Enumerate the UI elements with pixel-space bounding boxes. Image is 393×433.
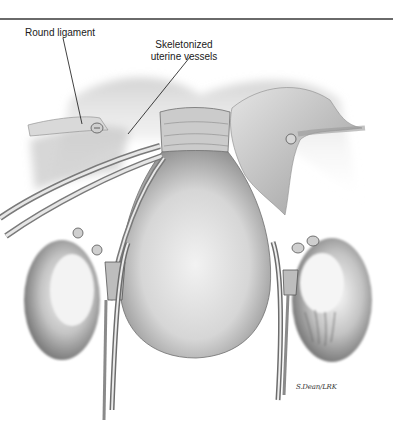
uterus — [120, 151, 271, 359]
artist-signature: S.Dean/LRK — [296, 383, 337, 391]
left-lower-clamp — [104, 243, 128, 420]
surgical-illustration — [0, 0, 393, 433]
right-lower-clamp — [273, 242, 298, 400]
right-ovary — [292, 238, 372, 362]
cervix — [160, 108, 230, 156]
left-ovary — [24, 240, 100, 360]
